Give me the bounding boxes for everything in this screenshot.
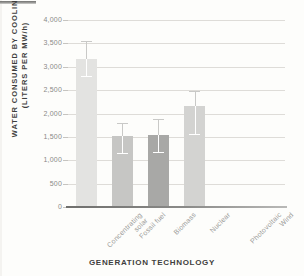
y-tick-label: 2,000 bbox=[43, 110, 62, 117]
y-tick-label: 3,000 bbox=[43, 63, 62, 70]
scan-edge-artifact bbox=[0, 0, 2, 276]
y-tick-label: 3,500 bbox=[43, 39, 62, 46]
error-bar-cap-upper bbox=[81, 41, 92, 42]
error-bar-stem-lower bbox=[86, 59, 87, 76]
gridline bbox=[68, 43, 285, 44]
error-bar-stem-upper bbox=[195, 91, 196, 105]
error-bar-stem-lower bbox=[122, 136, 123, 153]
x-category-label: Nuclear bbox=[208, 211, 232, 235]
y-axis-title: WATER CONSUMED BY COOLING (LITERS PER MW… bbox=[10, 0, 30, 145]
x-axis-title: GENERATION TECHNOLOGY bbox=[0, 258, 304, 267]
gridline bbox=[68, 184, 285, 185]
x-category-label: Biomass bbox=[173, 211, 199, 237]
error-bar-cap-lower bbox=[153, 152, 164, 153]
error-bar-stem-upper bbox=[158, 119, 159, 135]
x-axis-line bbox=[66, 206, 287, 208]
y-axis-title-line1: WATER CONSUMED BY COOLING bbox=[10, 0, 19, 137]
gridline bbox=[68, 114, 285, 115]
bar bbox=[76, 59, 97, 207]
y-axis-ticks: 05001,0001,5002,0002,5003,0003,5004,000 bbox=[28, 20, 62, 207]
y-tick-label: 4,000 bbox=[43, 16, 62, 23]
plot-area bbox=[68, 20, 285, 207]
gridline bbox=[68, 90, 285, 91]
error-bar-cap-upper bbox=[189, 91, 200, 92]
error-bar-stem-upper bbox=[122, 123, 123, 136]
error-bar-stem-lower bbox=[158, 135, 159, 151]
y-tick-label: 0 bbox=[58, 203, 62, 210]
error-bar-cap-upper bbox=[153, 119, 164, 120]
chart-figure: WATER CONSUMED BY COOLING (LITERS PER MW… bbox=[0, 0, 304, 276]
gridline bbox=[68, 160, 285, 161]
error-bar-cap-lower bbox=[189, 134, 200, 135]
y-tick-label: 1,500 bbox=[43, 133, 62, 140]
gridline bbox=[68, 67, 285, 68]
error-bar-cap-upper bbox=[117, 123, 128, 124]
y-tick-label: 500 bbox=[50, 180, 62, 187]
x-category-label: Photovoltaic bbox=[249, 211, 283, 245]
error-bar-cap-lower bbox=[117, 153, 128, 154]
error-bar-stem-lower bbox=[195, 106, 196, 134]
error-bar-stem-upper bbox=[86, 41, 87, 59]
y-tick-label: 1,000 bbox=[43, 156, 62, 163]
gridline bbox=[68, 20, 285, 21]
gridline bbox=[68, 137, 285, 138]
error-bar-cap-lower bbox=[81, 76, 92, 77]
y-tick-label: 2,500 bbox=[43, 86, 62, 93]
